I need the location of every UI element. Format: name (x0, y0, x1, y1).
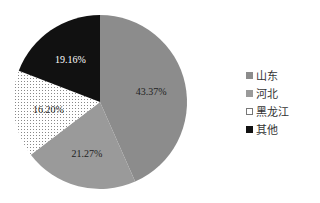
pie-data-label: 19.16% (55, 54, 86, 65)
legend-label: 黑龙江 (256, 103, 289, 119)
legend-item: 其他 (246, 120, 289, 138)
pie-data-label: 43.37% (136, 86, 167, 97)
pie-data-label: 21.27% (72, 148, 103, 159)
legend-swatch (246, 72, 253, 79)
legend-label: 河北 (256, 85, 278, 101)
legend-label: 其他 (256, 121, 278, 137)
legend-item: 黑龙江 (246, 102, 289, 120)
legend-swatch (246, 90, 253, 97)
legend-item: 河北 (246, 84, 289, 102)
legend-item: 山东 (246, 66, 289, 84)
legend: 山东河北黑龙江其他 (246, 66, 289, 138)
legend-label: 山东 (256, 67, 278, 83)
pie-data-label: 16.20% (33, 104, 64, 115)
legend-swatch (246, 126, 253, 133)
legend-swatch (246, 108, 253, 115)
